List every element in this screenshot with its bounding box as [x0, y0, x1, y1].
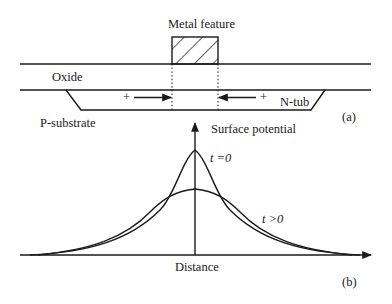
curve-t-positive-label: t >0 — [262, 212, 284, 226]
panel-a: Metal feature Oxide N-tub + + P-substrat… — [20, 17, 371, 130]
panel-b: Surface potential Distance t =0 t >0 (b) — [20, 122, 371, 289]
panel-a-label: (a) — [342, 110, 356, 124]
diagram-canvas: Metal feature Oxide N-tub + + P-substrat… — [0, 0, 392, 304]
p-substrate-label: P-substrate — [40, 116, 96, 130]
curve-t0-label: t =0 — [210, 151, 232, 165]
y-axis-label: Surface potential — [211, 122, 297, 136]
panel-b-label: (b) — [342, 275, 357, 289]
left-charge-plus: + — [123, 90, 130, 104]
metal-feature-block — [172, 37, 218, 64]
metal-feature-label: Metal feature — [168, 17, 235, 31]
right-charge-plus: + — [260, 90, 267, 104]
n-tub-label: N-tub — [280, 95, 309, 109]
x-axis-label: Distance — [175, 260, 219, 274]
oxide-label: Oxide — [52, 70, 83, 84]
